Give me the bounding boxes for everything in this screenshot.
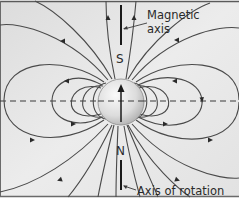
south-pole-label: S (116, 52, 124, 66)
rotation-axis-label: Axis of rotation (137, 184, 224, 198)
magnetic-field-diagram: S N Magnetic axis Axis of rotation (0, 0, 239, 211)
magnetic-axis-label-line2: axis (147, 22, 170, 36)
north-pole-label: N (116, 144, 125, 158)
magnetic-axis-label-line1: Magnetic (147, 8, 200, 22)
